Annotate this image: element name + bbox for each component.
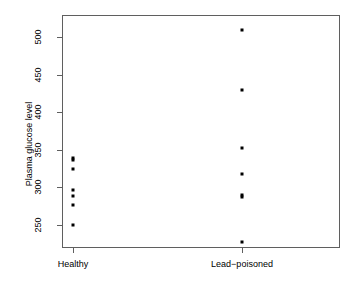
plot-frame (62, 15, 340, 248)
data-point (241, 88, 244, 91)
data-point (72, 159, 75, 162)
y-tick-label: 250 (32, 208, 44, 242)
x-tick-mark (242, 248, 243, 253)
y-tick-label: 350 (32, 133, 44, 167)
data-point (72, 188, 75, 191)
data-point (72, 195, 75, 198)
data-point (241, 29, 244, 32)
data-point (72, 224, 75, 227)
data-point (241, 172, 244, 175)
data-point (72, 203, 75, 206)
data-point (72, 167, 75, 170)
y-tick-label: 400 (32, 95, 44, 129)
chart-page: Plasma glucose level 250300350400450500 … (0, 0, 352, 288)
y-tick-label: 450 (32, 58, 44, 92)
data-point (241, 146, 244, 149)
y-tick-label: 500 (32, 20, 44, 54)
x-tick-label: Healthy (58, 258, 89, 271)
data-point (241, 196, 244, 199)
x-tick-mark (73, 248, 74, 253)
x-tick-label: Lead−poisoned (211, 258, 273, 271)
data-point (241, 241, 244, 244)
y-tick-label: 300 (32, 170, 44, 204)
